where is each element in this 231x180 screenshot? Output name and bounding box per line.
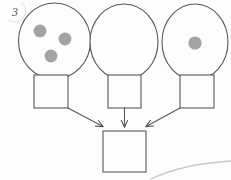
balloon-left[interactable] — [19, 3, 91, 79]
arrow-right-to-result — [146, 108, 180, 127]
box-right[interactable] — [180, 75, 214, 108]
balloon-left-dot-3 — [45, 50, 58, 63]
balloon-left-outline — [19, 3, 91, 79]
balloon-right[interactable] — [162, 4, 228, 80]
diagram-canvas — [0, 0, 231, 180]
box-left[interactable] — [34, 75, 68, 108]
balloon-middle-outline — [90, 4, 158, 80]
faint-curve-decoration — [151, 161, 231, 179]
arrow-left-to-result — [68, 108, 103, 127]
box-result[interactable] — [103, 131, 146, 172]
balloon-left-dot-1 — [34, 25, 47, 38]
balloon-left-dot-2 — [59, 33, 72, 46]
page-number-circle-annotation — [8, 3, 26, 22]
box-middle[interactable] — [108, 75, 141, 108]
balloon-middle[interactable] — [90, 4, 158, 80]
balloon-right-dot-1 — [188, 36, 201, 49]
